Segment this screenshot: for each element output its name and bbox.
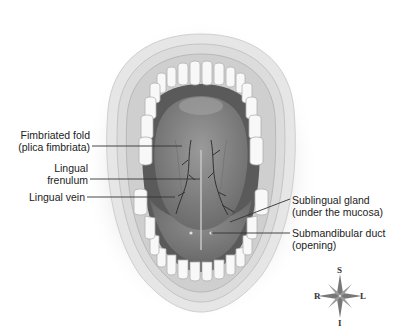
compass-left: L [360,291,366,301]
label-sublingual-gland: Sublingual gland (under the mucosa) [292,194,383,218]
label-lingual-frenulum-line2: frenulum [47,174,88,186]
label-lingual-vein: Lingual vein [29,191,85,203]
label-lingual-frenulum-line1: Lingual [47,162,88,174]
label-fimbriated-fold: Fimbriated fold (plica fimbriata) [18,129,90,153]
label-fimbriated-fold-line1: Fimbriated fold [18,129,90,141]
compass-inferior: I [338,318,342,328]
anatomy-diagram: Fimbriated fold (plica fimbriata) Lingua… [0,0,401,336]
label-submandibular-duct-line1: Submandibular duct [292,227,385,239]
label-submandibular-duct: Submandibular duct (opening) [292,227,385,251]
label-submandibular-duct-line2: (opening) [292,239,385,251]
compass-right: R [314,291,321,301]
compass-superior: S [337,265,342,275]
label-sublingual-gland-line1: Sublingual gland [292,194,383,206]
compass-rose-icon [318,274,362,318]
label-lingual-frenulum: Lingual frenulum [47,162,88,186]
label-lingual-vein-line1: Lingual vein [29,191,85,203]
label-fimbriated-fold-line2: (plica fimbriata) [18,141,90,153]
label-sublingual-gland-line2: (under the mucosa) [292,206,383,218]
